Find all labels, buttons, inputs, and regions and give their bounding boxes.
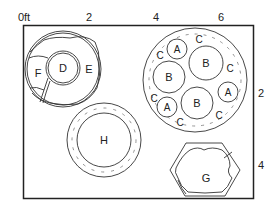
bed-label-a: A [164,102,171,113]
scale-label-4: 4 [153,11,159,23]
bed-label-c: C [215,110,222,121]
bed-label-a: A [174,44,181,55]
bed-label-b: B [202,57,209,69]
bed-label-b: B [193,97,200,109]
scale-label-y2: 2 [258,87,264,99]
g-planter [170,143,240,196]
scale-label-y4: 4 [258,159,264,171]
scale-label-2: 2 [86,11,92,23]
bed-label-c: C [156,50,163,61]
scale-label-0ft: 0ft [18,11,30,23]
bed-label-c: C [195,34,202,45]
bed-label-a: A [225,87,232,98]
bed-label-g: G [202,172,211,184]
bed-label-c: C [150,93,157,104]
bed-label-e: E [85,63,92,75]
bed-label-c: C [176,117,183,128]
bed-label-d: D [59,62,67,74]
garden-plan-diagram: 0ft 2 4 6 2 4 F D E A A A B B B C C C C … [0,0,277,213]
scale-label-6: 6 [218,11,224,23]
bed-label-c: C [226,63,233,74]
bed-label-h: H [100,134,108,146]
bed-label-f: F [35,67,42,79]
bed-label-b: B [165,71,172,83]
